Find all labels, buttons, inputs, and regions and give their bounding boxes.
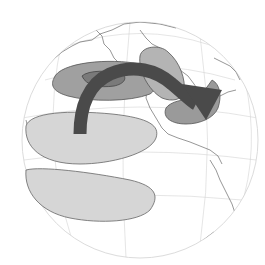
globe-svg bbox=[0, 0, 265, 265]
globe-diagram bbox=[0, 0, 265, 265]
